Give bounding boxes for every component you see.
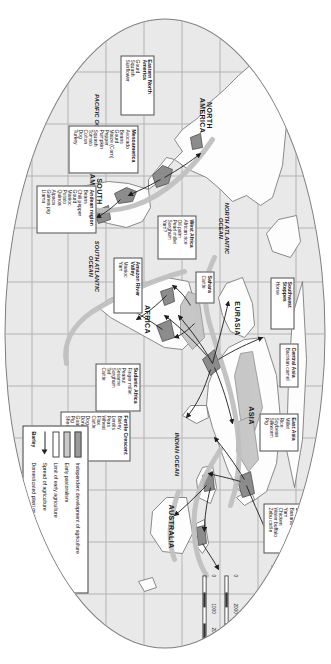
region-title: West Africa bbox=[188, 219, 193, 255]
region-title: Sahara bbox=[206, 275, 211, 299]
scale-tick-miles-0: 0 bbox=[210, 574, 215, 577]
map-figure: NORTH AMERICA SOUTH AMERICA AFRICA EURAS… bbox=[0, 0, 331, 664]
region-box-southeast-asia[interactable]: Southeast Asia Banana Yam Chicken Water … bbox=[263, 503, 302, 553]
region-box-sahara[interactable]: Sahara Cattle bbox=[195, 271, 214, 303]
scale-bar-km bbox=[224, 575, 228, 639]
legend-label: Early pastoralism bbox=[64, 462, 70, 502]
region-item: Yam bbox=[275, 569, 280, 603]
continent-label-africa: AFRICA bbox=[143, 297, 150, 341]
continent-label-eurasia: EURASIA bbox=[233, 291, 240, 345]
region-box-eastern-north-america[interactable]: Eastern North America Gourd Squash Sunfl… bbox=[120, 55, 154, 115]
legend-label: Independent development of agriculture bbox=[75, 462, 81, 553]
region-title: Southeast Asia bbox=[294, 507, 299, 549]
region-item: Llama bbox=[40, 189, 45, 229]
legend-row-independent: Independent development of agriculture bbox=[72, 431, 83, 587]
legend-swatch-independent-icon bbox=[74, 431, 81, 457]
scale-tick-km-2: 4000 km bbox=[232, 631, 237, 648]
world-oval-projection: NORTH AMERICA SOUTH AMERICA AFRICA EURAS… bbox=[4, 18, 325, 648]
region-box-west-africa[interactable]: West Africa African rice Oil palm Pearl … bbox=[157, 215, 196, 259]
region-box-mesoamerica[interactable]: Mesoamerica Avocado Beans Gourd Maize (C… bbox=[68, 125, 138, 173]
region-box-central-asia[interactable]: Central Asia Bactrian camel bbox=[279, 343, 298, 387]
scale-tick-km-1: 2000 bbox=[232, 603, 237, 613]
region-box-new-guinea[interactable]: New Guinea Sugar cane Taro Yam bbox=[271, 565, 300, 607]
legend-row-spread: Spread of agriculture bbox=[39, 431, 50, 587]
region-title: New Guinea bbox=[292, 569, 297, 603]
region-box-andean-region[interactable]: Andean region Beans Chili pepper Gourd M… bbox=[36, 185, 96, 233]
region-box-amazon-river-valley[interactable]: Amazon River Valley Manioc Yam bbox=[113, 257, 142, 313]
rotated-map-canvas: NORTH AMERICA SOUTH AMERICA AFRICA EURAS… bbox=[0, 0, 331, 664]
region-item: Yam bbox=[117, 261, 122, 309]
region-title: Mesoamerica bbox=[130, 129, 135, 169]
legend-swatch-pastoralism-icon bbox=[63, 431, 70, 457]
legend-label: Domesticated plant or animal bbox=[31, 462, 37, 529]
scale-tick-miles-1: 1000 bbox=[210, 603, 215, 613]
scale-tick-miles-2: 2000 miles bbox=[210, 627, 215, 648]
region-item: Cattle bbox=[99, 367, 104, 407]
scale-bar-miles bbox=[202, 575, 206, 639]
region-title: Southwest Steppes bbox=[280, 281, 291, 325]
region-title: East Asia bbox=[290, 417, 295, 447]
legend-row-pastoralism: Early pastoralism bbox=[61, 431, 72, 587]
legend-arrow-icon bbox=[41, 431, 48, 457]
region-title: Fertile Crescent bbox=[122, 415, 127, 457]
legend-label: Spread of agriculture bbox=[42, 462, 48, 510]
region-title: Central Asia bbox=[290, 347, 295, 383]
map-legend: Independent development of agriculture E… bbox=[22, 425, 88, 593]
region-box-east-asia[interactable]: East Asia Millet Rice Soybean Silkworm P… bbox=[259, 413, 298, 451]
ocean-label-indian: INDIAN OCEAN bbox=[172, 427, 178, 481]
legend-label: Limit of early agriculture bbox=[53, 462, 59, 517]
region-box-sudanic-africa[interactable]: Sudanic Africa Finger millet Peanut Sesa… bbox=[95, 363, 140, 411]
ocean-label-south-atlantic: SOUTH ATLANTIC OCEAN bbox=[86, 239, 98, 293]
legend-row-limit: Limit of early agriculture bbox=[50, 431, 61, 587]
scale-bar: 0 2000 4000 km 0 1000 2000 miles bbox=[182, 575, 238, 648]
scale-tick-km-0: 0 bbox=[232, 574, 237, 577]
continent-label-australia: AUSTRALIA bbox=[167, 497, 174, 555]
region-item: Cattle bbox=[199, 275, 204, 299]
region-item: Zebu cattle bbox=[267, 507, 272, 549]
continent-label-asia: ASIA bbox=[247, 399, 254, 431]
region-item: Turkey bbox=[72, 129, 77, 169]
continent-label-north-america: NORTH AMERICA bbox=[197, 83, 212, 147]
region-title: Amazon River Valley bbox=[128, 261, 139, 309]
legend-row-domesticate: Barley Domesticated plant or animal bbox=[28, 431, 39, 587]
region-item: Bactrian camel bbox=[283, 347, 288, 383]
legend-sample-text: Barley bbox=[31, 431, 37, 457]
region-title: Sudanic Africa bbox=[132, 367, 137, 407]
legend-swatch-limit-icon bbox=[52, 431, 59, 457]
region-title: Andean region bbox=[88, 189, 93, 229]
region-title: Eastern North America bbox=[140, 59, 151, 111]
region-item: Sunflower bbox=[124, 59, 129, 111]
region-item: Pig bbox=[263, 417, 268, 447]
region-box-southwest-steppes[interactable]: Southwest Steppes Horse bbox=[270, 277, 294, 329]
ocean-label-north-atlantic: NORTH ATLANTIC OCEAN bbox=[216, 201, 228, 255]
region-item: Yam? bbox=[161, 219, 166, 255]
region-item: Horse bbox=[274, 281, 279, 325]
